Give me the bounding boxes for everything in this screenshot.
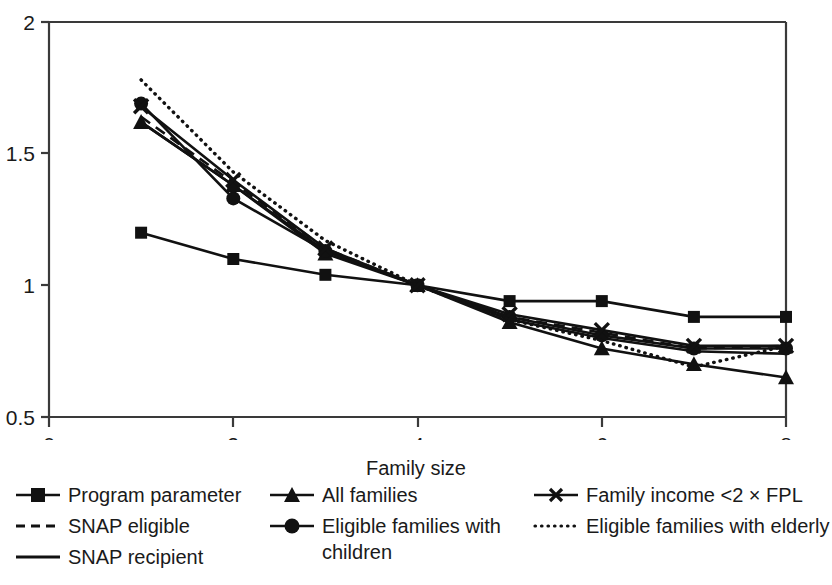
legend-item-snap-recipient[interactable]: SNAP recipient: [14, 544, 264, 575]
chart-legend: Program parameter SNAP eligible SNAP rec…: [14, 482, 824, 580]
y-tick-label-2: 2: [23, 11, 35, 34]
series-eligible-families-with-elderly: [141, 80, 786, 367]
legend-item-program-parameter[interactable]: Program parameter: [14, 482, 264, 513]
plot-area: 2 1.5 1 0.5 0 2 4 6 8: [0, 0, 832, 440]
x-tick-label-4: 4: [412, 433, 424, 440]
x-tick-label-2: 2: [227, 433, 239, 440]
x-axis-title-wrap: Family size: [0, 457, 832, 480]
x-tick-label-0: 0: [43, 433, 55, 440]
legend-item-eligible-families-elderly[interactable]: Eligible families with elderly: [532, 513, 832, 544]
x-tick-label-8: 8: [780, 433, 792, 440]
legend-label-snap-recipient: SNAP recipient: [68, 544, 203, 570]
legend-label-eligible-families-elderly: Eligible families with elderly: [586, 513, 829, 539]
x-axis-title: Family size: [366, 457, 466, 479]
data-point-marker: [226, 191, 240, 205]
data-point-marker: [227, 253, 239, 265]
legend-column-1: Program parameter SNAP eligible SNAP rec…: [14, 482, 264, 575]
legend-item-snap-eligible[interactable]: SNAP eligible: [14, 513, 264, 544]
chart-svg: 2 1.5 1 0.5 0 2 4 6 8: [0, 0, 832, 440]
legend-item-all-families[interactable]: All families: [268, 482, 528, 513]
series-line: [141, 80, 786, 367]
legend-label-all-families: All families: [322, 482, 418, 508]
series-program-parameter: [135, 227, 792, 323]
chart-figure: 2 1.5 1 0.5 0 2 4 6 8 Family size: [0, 0, 832, 585]
y-tick-marks: [41, 22, 49, 417]
data-series-layer: [133, 80, 794, 384]
legend-column-2: All families Eligible families with chil…: [268, 482, 528, 575]
y-tick-label-0-5: 0.5: [6, 406, 35, 429]
line-triangle-marker-icon: [268, 484, 316, 506]
line-solid-icon: [14, 546, 62, 568]
series-line: [141, 106, 786, 346]
legend-item-family-income-fpl[interactable]: Family income <2 × FPL: [532, 482, 832, 513]
data-point-marker: [688, 311, 700, 323]
line-x-marker-icon: [532, 484, 580, 506]
legend-column-3: Family income <2 × FPL Eligible families…: [532, 482, 832, 544]
data-point-marker: [780, 311, 792, 323]
x-tick-marks: [49, 417, 786, 427]
legend-label-snap-eligible: SNAP eligible: [68, 513, 190, 539]
data-point-marker: [135, 227, 147, 239]
legend-label-family-income-fpl: Family income <2 × FPL: [586, 482, 803, 508]
line-circle-marker-icon: [268, 515, 316, 537]
y-tick-label-1-5: 1.5: [6, 142, 35, 165]
legend-label-program-parameter: Program parameter: [68, 482, 241, 508]
x-tick-label-6: 6: [596, 433, 608, 440]
y-tick-label-1: 1: [23, 274, 35, 297]
data-point-marker: [596, 295, 608, 307]
legend-label-eligible-families-children: Eligible families with children: [322, 513, 522, 565]
line-square-marker-icon: [14, 484, 62, 506]
line-dashed-icon: [14, 515, 62, 537]
data-point-marker: [504, 295, 516, 307]
data-point-marker: [319, 269, 331, 281]
legend-item-eligible-families-children[interactable]: Eligible families with children: [268, 513, 528, 575]
line-dotted-icon: [532, 515, 580, 537]
